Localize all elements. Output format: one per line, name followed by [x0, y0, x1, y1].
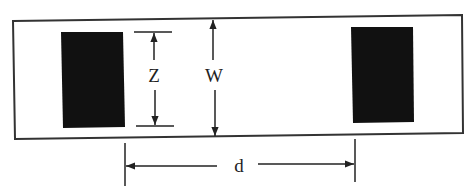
z-label: Z — [148, 65, 160, 86]
w-label: W — [205, 65, 223, 86]
w-dimension: W — [205, 20, 223, 136]
right-block — [351, 27, 414, 123]
d-dimension: d — [125, 139, 355, 186]
left-block — [61, 32, 125, 128]
d-label: d — [234, 155, 244, 176]
dimension-diagram: Z W d — [0, 0, 466, 194]
z-dimension: Z — [134, 32, 174, 126]
